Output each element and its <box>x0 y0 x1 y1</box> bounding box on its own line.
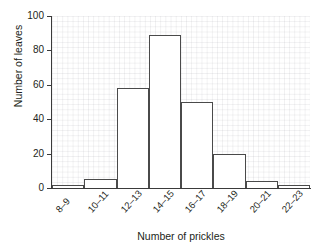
x-tick-label-20-21: 20–21 <box>248 188 273 214</box>
y-tick-label-40: 40 <box>16 114 44 124</box>
bar-10-11 <box>84 179 116 188</box>
x-tick-cell-4: 16–17 <box>181 188 213 228</box>
y-tick-label-0: 0 <box>16 183 44 193</box>
x-tick-label-10-11: 10–11 <box>86 189 111 215</box>
x-tick-label-18-19: 18–19 <box>215 188 240 214</box>
bar-series <box>52 16 310 188</box>
y-tick-label-20: 20 <box>16 149 44 159</box>
bar-20-21 <box>246 181 278 188</box>
x-tick-label-16-17: 16–17 <box>183 188 208 214</box>
y-tick-label-60: 60 <box>16 80 44 90</box>
x-tick-label-22-23: 22–23 <box>280 188 305 214</box>
y-tick-label-100: 100 <box>16 11 44 21</box>
y-axis-line <box>51 16 52 189</box>
bar-18-19 <box>213 154 245 188</box>
x-tick-cell-2: 12–13 <box>117 188 149 228</box>
x-axis-tick-labels: 8–9 10–11 12–13 14–15 16–17 18–19 20–21 … <box>52 188 310 228</box>
bar-12-13 <box>117 88 149 188</box>
bar-14-15 <box>149 35 181 188</box>
x-axis-title: Number of prickles <box>52 230 310 242</box>
x-tick-cell-7: 22–23 <box>278 188 310 228</box>
x-tick-cell-5: 18–19 <box>213 188 245 228</box>
y-axis-tick-labels: 100 80 60 40 20 0 <box>16 0 44 250</box>
y-tick-label-80: 80 <box>16 45 44 55</box>
x-tick-label-12-13: 12–13 <box>119 188 144 214</box>
x-tick-label-8-9: 8–9 <box>54 196 72 214</box>
x-tick-cell-3: 14–15 <box>149 188 181 228</box>
x-tick-cell-1: 10–11 <box>84 188 116 228</box>
x-tick-label-14-15: 14–15 <box>151 188 176 214</box>
bar-16-17 <box>181 102 213 188</box>
x-tick-cell-6: 20–21 <box>246 188 278 228</box>
histogram-figure: Number of leaves 100 80 60 40 20 0 8–9 1… <box>0 0 328 250</box>
x-tick-cell-0: 8–9 <box>52 188 84 228</box>
